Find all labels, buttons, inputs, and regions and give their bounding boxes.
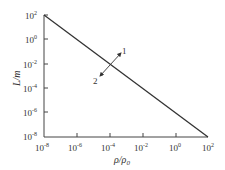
svg-text:10-4: 10-4: [23, 83, 37, 94]
svg-text:102: 102: [202, 142, 214, 153]
y-ticks: [44, 15, 48, 112]
x-ticks: [77, 133, 176, 137]
svg-text:10-6: 10-6: [68, 142, 82, 153]
arrow-2-label: 2: [93, 76, 98, 86]
svg-text:100: 100: [25, 34, 37, 45]
chart: 102 100 10-2 10-4 10-6 10-8 10-8 10-6 10…: [0, 0, 225, 170]
svg-text:10-2: 10-2: [23, 59, 37, 70]
svg-text:10-8: 10-8: [23, 131, 37, 142]
svg-text:10-2: 10-2: [134, 142, 148, 153]
y-tick-labels: 102 100 10-2 10-4 10-6 10-8: [23, 10, 37, 142]
svg-text:100: 100: [169, 142, 181, 153]
svg-text:10-4: 10-4: [101, 142, 115, 153]
data-line: [44, 15, 208, 137]
arrow-1-label: 1: [122, 46, 127, 56]
svg-text:10-8: 10-8: [35, 142, 49, 153]
y-axis-label: L/m: [11, 70, 22, 87]
svg-text:10-6: 10-6: [23, 107, 37, 118]
arrow-1: [110, 53, 121, 65]
arrow-2: [100, 65, 110, 76]
svg-text:102: 102: [25, 10, 37, 21]
x-axis-label: ρ/ρ0: [113, 154, 130, 167]
x-tick-labels: 10-8 10-6 10-4 10-2 100 102: [35, 142, 214, 153]
